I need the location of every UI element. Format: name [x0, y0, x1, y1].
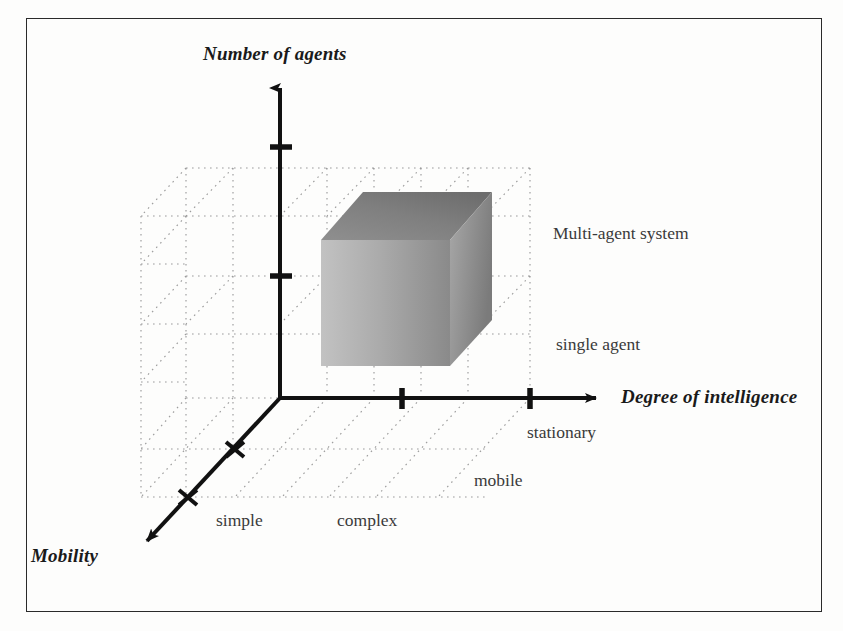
mobile-tick-label: mobile	[474, 472, 523, 490]
single-agent-label: single agent	[556, 336, 640, 354]
figure-page: Number of agents Degree of intelligence …	[0, 0, 843, 631]
number-of-agents-axis-title: Number of agents	[203, 44, 347, 63]
stationary-tick-label: stationary	[527, 424, 596, 442]
agent-space-cube	[321, 192, 492, 366]
diagram-canvas	[0, 0, 843, 631]
mobility-axis-title: Mobility	[31, 546, 98, 565]
degree-of-intelligence-axis-title: Degree of intelligence	[621, 387, 797, 406]
complex-tick-label: complex	[337, 512, 397, 530]
multi-agent-system-label: Multi-agent system	[553, 225, 689, 243]
simple-tick-label: simple	[216, 512, 263, 530]
